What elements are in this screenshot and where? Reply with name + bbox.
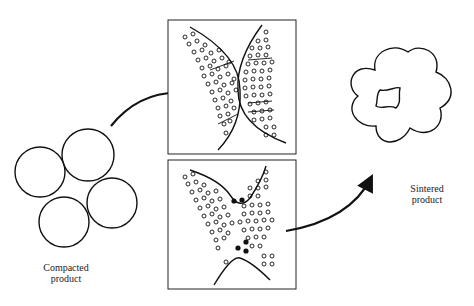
label-line-2: product xyxy=(400,194,454,205)
sintered-product-label: Sintered product xyxy=(400,183,454,205)
compacted-particles xyxy=(15,129,137,247)
particle-4 xyxy=(39,197,89,247)
sintering-diagram xyxy=(0,0,474,306)
pore-shrinkage-panel xyxy=(168,160,296,289)
label-line-1: Sintered xyxy=(400,183,454,194)
particle-3 xyxy=(87,178,137,228)
particle-2 xyxy=(62,129,114,181)
compacted-product-label: Compacted product xyxy=(34,262,98,284)
particle-1 xyxy=(15,147,65,197)
label-line-2: product xyxy=(34,273,98,284)
sintered-body xyxy=(351,48,451,142)
neck-formation-panel xyxy=(168,20,296,154)
label-line-1: Compacted xyxy=(34,262,98,273)
arrow-to-sintered xyxy=(286,178,371,231)
